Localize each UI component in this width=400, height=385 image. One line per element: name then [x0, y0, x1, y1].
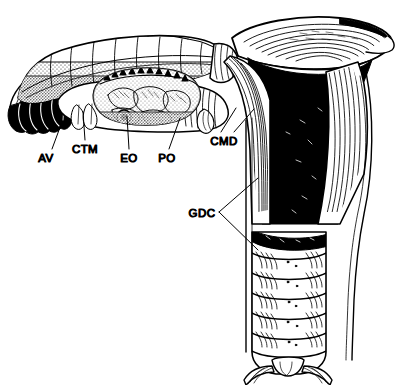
label-cmd: CMD [210, 135, 237, 147]
label-po: PO [158, 152, 175, 164]
figure-labels: AV CTM EO PO CMD GDC [38, 135, 237, 219]
part-gdc-genital-duct-chamber [250, 228, 328, 374]
label-gdc: GDC [189, 207, 216, 219]
figure-drawing: AV CTM EO PO CMD GDC [0, 0, 400, 385]
label-av: AV [38, 152, 53, 164]
label-ctm: CTM [72, 143, 98, 155]
anatomical-figure: AV CTM EO PO CMD GDC [0, 0, 400, 385]
label-eo: EO [120, 152, 137, 164]
